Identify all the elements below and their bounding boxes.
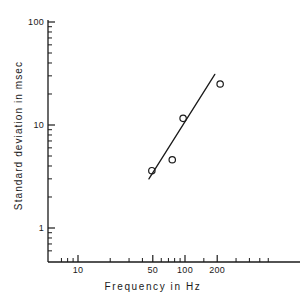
- regression-line: [149, 74, 215, 178]
- x-axis-ticks: [61, 255, 268, 262]
- data-point-markers: [149, 81, 224, 174]
- y-tick-label: 100: [12, 17, 44, 27]
- chart-plot-area: [0, 0, 306, 307]
- y-axis-title: Standard deviation in msec: [13, 36, 24, 236]
- axis-spines: [48, 20, 300, 262]
- x-tick-label: 10: [58, 265, 98, 275]
- x-axis-title: Frequency in Hz: [0, 281, 306, 292]
- x-tick-label: 200: [197, 265, 237, 275]
- y-axis-ticks: [48, 22, 55, 251]
- chart-figure: 100101 1050100200 Frequency in Hz Standa…: [0, 0, 306, 307]
